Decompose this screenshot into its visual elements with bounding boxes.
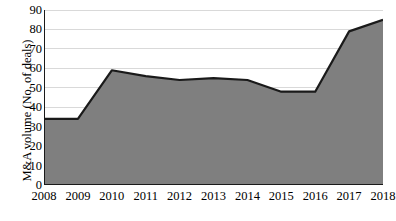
- x-tick-label: 2010: [99, 190, 124, 203]
- x-tick-label: 2013: [201, 190, 226, 203]
- area-series-fill: [44, 20, 383, 185]
- plot-area: [44, 8, 383, 185]
- x-tick-label: 2014: [235, 190, 260, 203]
- y-tick-label: 90: [18, 4, 42, 17]
- x-tick-label: 2015: [269, 190, 294, 203]
- plot-svg: [44, 8, 383, 185]
- x-tick-label: 2017: [337, 190, 362, 203]
- y-tick-label: 50: [18, 82, 42, 95]
- y-axis-tick-labels: 0102030405060708090: [18, 0, 42, 221]
- y-tick-label: 10: [18, 159, 42, 172]
- x-tick-label: 2009: [65, 190, 90, 203]
- y-tick-label: 20: [18, 140, 42, 153]
- x-tick-label: 2018: [371, 190, 396, 203]
- y-tick-label: 70: [18, 43, 42, 56]
- y-tick-label: 60: [18, 62, 42, 75]
- x-tick-label: 2012: [167, 190, 192, 203]
- x-axis-tick-labels: 2008200920102011201220132014201520162017…: [44, 190, 383, 212]
- x-tick-label: 2011: [133, 190, 158, 203]
- x-tick-label: 2016: [303, 190, 328, 203]
- y-tick-label: 80: [18, 23, 42, 36]
- y-tick-label: 40: [18, 101, 42, 114]
- x-tick-label: 2008: [32, 190, 57, 203]
- y-tick-label: 30: [18, 120, 42, 133]
